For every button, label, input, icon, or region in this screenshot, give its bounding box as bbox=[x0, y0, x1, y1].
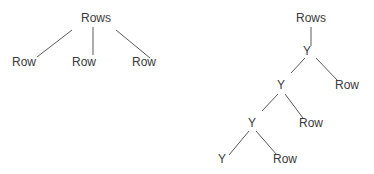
node-rows-root: Rows bbox=[81, 11, 111, 25]
node-y: Y bbox=[248, 116, 256, 130]
node-y: Y bbox=[277, 78, 285, 92]
edge bbox=[116, 30, 150, 58]
node-row: Row bbox=[299, 116, 323, 130]
edge bbox=[229, 131, 249, 155]
edge bbox=[285, 94, 303, 118]
node-row: Row bbox=[335, 78, 359, 92]
tree-diagram: Rows Row Row Row Rows Y Y Row Y Row Y Ro… bbox=[0, 0, 374, 174]
edge bbox=[37, 30, 72, 57]
node-row: Row bbox=[72, 55, 96, 69]
node-rows-root: Rows bbox=[296, 11, 326, 25]
recursive-rows-tree: Rows Y Y Row Y Row Y Row bbox=[218, 11, 359, 166]
node-row: Row bbox=[132, 55, 156, 69]
node-y: Y bbox=[303, 44, 311, 58]
flat-rows-tree: Rows Row Row Row bbox=[12, 11, 156, 69]
edge bbox=[291, 58, 305, 73]
edge bbox=[262, 94, 278, 111]
node-row: Row bbox=[273, 152, 297, 166]
node-y: Y bbox=[218, 152, 226, 166]
node-row: Row bbox=[12, 55, 36, 69]
